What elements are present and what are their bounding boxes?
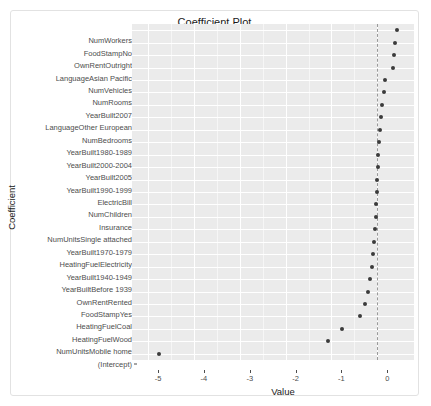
grid-line-horizontal — [132, 92, 414, 93]
y-axis-tick-mark — [134, 363, 137, 364]
grid-line-horizontal — [132, 130, 414, 131]
data-point[interactable] — [383, 78, 387, 82]
x-axis-tick-label: -4 — [201, 374, 208, 383]
grid-line-horizontal — [132, 155, 414, 156]
y-axis-tick-label: YearBuilt2005 — [86, 173, 132, 182]
y-axis-tick-label: FoodStampYes — [81, 310, 132, 319]
grid-line-horizontal — [132, 105, 414, 106]
grid-line-horizontal — [132, 167, 414, 168]
y-axis-tick-label: YearBuilt2007 — [86, 110, 132, 119]
grid-line-horizontal — [132, 292, 414, 293]
x-axis-tick-mark — [250, 370, 251, 373]
data-point[interactable] — [376, 153, 380, 157]
grid-line-horizontal — [132, 180, 414, 181]
x-axis-tick-label: -3 — [246, 374, 253, 383]
x-axis-tick-label: -1 — [338, 374, 345, 383]
data-point[interactable] — [395, 28, 399, 32]
x-axis-tick-label: 0 — [385, 374, 389, 383]
grid-line-horizontal — [132, 341, 414, 342]
y-axis-tick-labels: NumWorkersFoodStampNoOwnRentOutrightLang… — [11, 34, 139, 370]
y-axis-tick-label: LanguageOther European — [45, 123, 132, 132]
x-axis-tick-mark — [387, 370, 388, 373]
y-axis-tick-label: NumUnitsSingle attached — [47, 235, 132, 244]
grid-line-horizontal — [132, 192, 414, 193]
grid-line-horizontal — [132, 229, 414, 230]
y-axis-tick-label: HeatingFuelElectricity — [59, 260, 132, 269]
y-axis-tick-label: YearBuilt1980-1989 — [66, 148, 132, 157]
grid-line-horizontal — [132, 316, 414, 317]
data-point[interactable] — [391, 66, 395, 70]
y-axis-tick-label: Insurance — [99, 222, 132, 231]
data-point[interactable] — [326, 339, 330, 343]
data-point[interactable] — [372, 240, 376, 244]
x-axis-tick-mark — [341, 370, 342, 373]
plot-panel — [132, 24, 414, 360]
data-point[interactable] — [393, 41, 397, 45]
y-axis-tick-label: NumWorkers — [88, 36, 132, 45]
y-axis-tick-label: YearBuiltBefore 1939 — [61, 285, 132, 294]
y-axis-tick-label: HeatingFuelWood — [72, 334, 132, 343]
data-point[interactable] — [370, 265, 374, 269]
x-axis-tick-label: -5 — [155, 374, 162, 383]
x-axis-title: Value — [142, 386, 424, 397]
data-point[interactable] — [340, 327, 344, 331]
grid-line-horizontal — [132, 68, 414, 69]
data-point[interactable] — [157, 352, 161, 356]
grid-line-horizontal — [132, 329, 414, 330]
y-axis-tick-label: (Intercept) — [98, 359, 132, 368]
y-axis-tick-label: LanguageAsian Pacific — [56, 73, 132, 82]
data-point[interactable] — [358, 314, 362, 318]
grid-line-horizontal — [132, 55, 414, 56]
chart-card: Coefficient Plot Coefficient NumWorkersF… — [10, 10, 419, 396]
grid-line-horizontal — [132, 217, 414, 218]
y-axis-tick-label: YearBuilt1990-1999 — [66, 185, 132, 194]
data-point[interactable] — [377, 140, 381, 144]
grid-line-horizontal — [132, 304, 414, 305]
x-axis-tick-mark — [204, 370, 205, 373]
grid-line-horizontal — [132, 204, 414, 205]
y-axis-tick-label: ElectricBill — [97, 198, 132, 207]
data-point[interactable] — [375, 190, 379, 194]
y-axis-tick-label: YearBuilt1970-1979 — [66, 247, 132, 256]
y-axis-tick-label: FoodStampNo — [84, 48, 132, 57]
data-point[interactable] — [382, 90, 386, 94]
grid-line-horizontal — [132, 43, 414, 44]
x-axis-tick-mark — [158, 370, 159, 373]
y-axis-tick-label: OwnRentOutright — [74, 61, 132, 70]
data-point[interactable] — [374, 215, 378, 219]
grid-line-horizontal — [132, 354, 414, 355]
y-axis-tick-label: NumRooms — [92, 98, 132, 107]
data-point[interactable] — [378, 128, 382, 132]
data-point[interactable] — [375, 178, 379, 182]
y-axis-tick-label: YearBuilt1940-1949 — [66, 272, 132, 281]
y-axis-tick-label: HeatingFuelCoal — [76, 322, 132, 331]
grid-line-horizontal — [132, 80, 414, 81]
y-axis-tick-label: OwnRentRented — [77, 297, 132, 306]
data-point[interactable] — [363, 302, 367, 306]
y-axis-tick-label: NumVehicles — [88, 86, 132, 95]
grid-line-horizontal — [132, 142, 414, 143]
data-point[interactable] — [380, 103, 384, 107]
data-point[interactable] — [368, 277, 372, 281]
y-axis-tick-label: NumChildren — [88, 210, 132, 219]
data-point[interactable] — [376, 165, 380, 169]
y-axis-tick-label: NumBedrooms — [82, 135, 132, 144]
x-axis-tick-label: -2 — [292, 374, 299, 383]
data-point[interactable] — [366, 290, 370, 294]
y-axis-tick-label: YearBuilt2000-2004 — [66, 160, 132, 169]
grid-line-horizontal — [132, 30, 414, 31]
grid-line-horizontal — [132, 117, 414, 118]
data-point[interactable] — [379, 115, 383, 119]
data-point[interactable] — [371, 252, 375, 256]
x-axis-tick-mark — [296, 370, 297, 373]
data-point[interactable] — [392, 53, 396, 57]
y-axis-tick-label: NumUnitsMobile home — [56, 347, 132, 356]
